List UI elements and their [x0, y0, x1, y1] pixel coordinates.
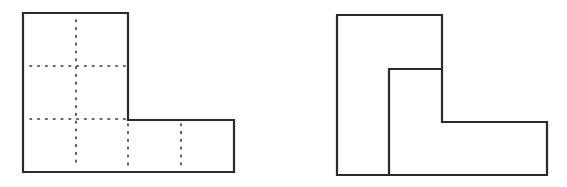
right-l-outline	[337, 15, 547, 175]
l-shape-dissection-diagram	[0, 0, 567, 187]
left-l-shape-grid	[23, 13, 234, 172]
divider-line	[389, 69, 442, 175]
right-l-shape-split	[337, 15, 547, 175]
